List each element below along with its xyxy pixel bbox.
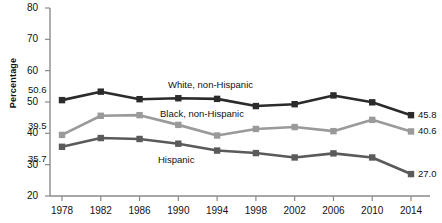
series-marker (291, 154, 297, 160)
end-value-label-1: 40.6 (418, 125, 437, 136)
series-marker (98, 135, 104, 141)
series-marker (136, 96, 142, 102)
series-marker (136, 136, 142, 142)
start-value-label-1: 39.5 (28, 120, 47, 131)
end-value-label-0: 45.8 (418, 109, 437, 120)
series-marker (175, 95, 181, 101)
series-marker (214, 96, 220, 102)
series-marker (253, 150, 259, 156)
series-marker (369, 154, 375, 160)
series-marker (59, 144, 65, 150)
series-label-0: White, non-Hispanic (168, 79, 253, 90)
series-marker (214, 132, 220, 138)
series-marker (291, 101, 297, 107)
series-label-2: Hispanic (158, 154, 194, 165)
series-marker (98, 88, 104, 94)
series-marker (291, 124, 297, 130)
series-line-2 (62, 138, 411, 174)
start-value-label-0: 50.6 (28, 84, 47, 95)
series-marker (408, 171, 414, 177)
series-label-1: Black, non-Hispanic (160, 108, 244, 119)
series-marker (408, 128, 414, 134)
series-marker (59, 132, 65, 138)
series-marker (253, 126, 259, 132)
chart-figure: Percentage 80706050403020 19781982198619… (0, 0, 442, 223)
series-marker (330, 92, 336, 98)
series-marker (253, 103, 259, 109)
series-marker (98, 113, 104, 119)
series-marker (330, 128, 336, 134)
series-marker (136, 112, 142, 118)
series-marker (369, 99, 375, 105)
series-marker (175, 122, 181, 128)
series-marker (175, 140, 181, 146)
series-marker (330, 150, 336, 156)
end-value-label-2: 27.0 (418, 168, 437, 179)
series-marker (214, 147, 220, 153)
series-marker (408, 112, 414, 118)
series-marker (369, 117, 375, 123)
series-marker (59, 97, 65, 103)
start-value-label-2: 35.7 (28, 153, 47, 164)
